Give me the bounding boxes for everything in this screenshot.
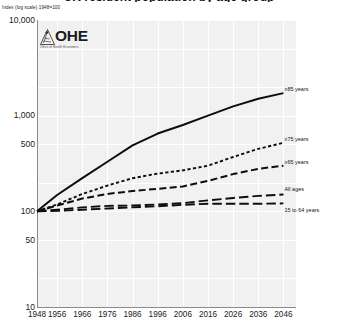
series-label-all-ages: All ages <box>284 186 304 192</box>
series-label-15-to-64-years: 15 to 64 years <box>284 207 319 213</box>
series-label-85-years: ≥85 years <box>284 86 308 92</box>
series-line <box>37 143 283 211</box>
chart-root: UK resident population by age group Inde… <box>0 0 338 329</box>
series-label-75-years: ≥75 years <box>284 136 308 142</box>
series-label-65-years: ≥65 years <box>284 159 308 165</box>
